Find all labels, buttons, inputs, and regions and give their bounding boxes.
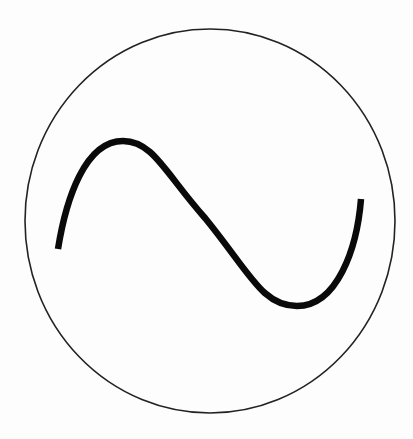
ac-symbol-diagram	[0, 0, 413, 439]
ac-symbol-svg	[0, 0, 413, 439]
sine-wave-icon	[58, 141, 361, 306]
